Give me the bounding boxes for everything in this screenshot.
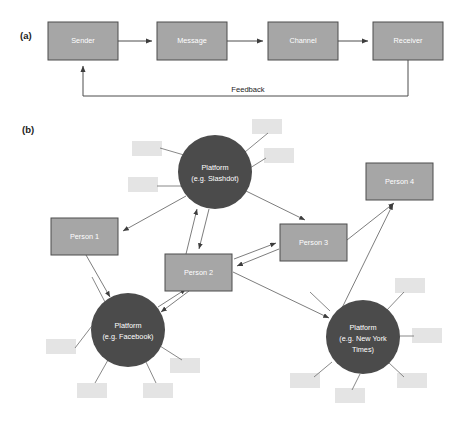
- faded-node: [395, 278, 425, 293]
- faded-node: [143, 383, 173, 398]
- node-platform-nytimes-line2: (e.g. New York: [339, 334, 387, 343]
- node-platform-slashdot[interactable]: Platform (e.g. Slashdot): [178, 135, 252, 209]
- panel-b-label: (b): [22, 124, 34, 135]
- node-platform-nytimes-line3: Times): [352, 345, 374, 354]
- faded-node: [264, 148, 294, 163]
- node-receiver[interactable]: Receiver: [373, 22, 443, 60]
- node-platform-slashdot-line2: (e.g. Slashdot): [191, 174, 238, 183]
- link-person2-to-facebook: [161, 291, 189, 312]
- node-person1[interactable]: Person 1: [51, 218, 118, 255]
- diagram-canvas: (a) Sender Message Channel R: [0, 0, 455, 426]
- node-platform-facebook-line2: (e.g. Facebook): [102, 332, 153, 341]
- node-channel[interactable]: Channel: [268, 22, 338, 60]
- link-person3-to-person4: [347, 203, 394, 240]
- node-platform-facebook[interactable]: Platform (e.g. Facebook): [91, 293, 165, 367]
- node-person4-label: Person 4: [385, 177, 414, 186]
- spoke: [146, 362, 156, 383]
- node-person2[interactable]: Person 2: [165, 254, 232, 291]
- feedback-label: Feedback: [231, 85, 265, 94]
- faded-node: [128, 177, 158, 192]
- node-person3[interactable]: Person 3: [280, 224, 347, 261]
- node-person4[interactable]: Person 4: [366, 163, 433, 200]
- node-message[interactable]: Message: [157, 22, 227, 60]
- faded-node: [77, 383, 107, 398]
- node-sender-label: Sender: [71, 36, 95, 45]
- faded-node: [412, 328, 442, 343]
- link-slashdot-to-person3: [246, 191, 305, 220]
- faded-node: [46, 339, 76, 354]
- link-person1-to-facebook: [86, 255, 110, 297]
- node-person2-label: Person 2: [184, 268, 213, 277]
- node-message-label: Message: [177, 36, 207, 45]
- node-platform-facebook-line1: Platform: [114, 321, 141, 330]
- node-sender[interactable]: Sender: [48, 22, 118, 60]
- link-person2-to-slashdot: [186, 209, 197, 254]
- spoke: [388, 362, 404, 377]
- node-receiver-label: Receiver: [394, 36, 423, 45]
- node-platform-facebook-shape[interactable]: [91, 293, 165, 367]
- panel-a: (a) Sender Message Channel R: [20, 22, 443, 96]
- link-slashdot-to-person2: [199, 209, 209, 249]
- link-nytimes-to-person4: [341, 204, 393, 310]
- faded-node: [335, 388, 365, 403]
- node-platform-slashdot-line1: Platform: [201, 163, 228, 172]
- spoke: [95, 360, 108, 383]
- link-person2-to-person3: [234, 243, 276, 259]
- spoke: [314, 362, 332, 377]
- faded-node: [252, 119, 282, 134]
- panel-b: (b): [22, 119, 442, 403]
- link-slashdot-to-person1: [123, 196, 186, 231]
- spoke: [160, 148, 184, 155]
- node-platform-slashdot-shape[interactable]: [178, 135, 252, 209]
- spoke: [250, 158, 266, 168]
- spoke: [310, 292, 330, 311]
- link-person2-to-nytimes: [233, 272, 329, 318]
- spoke: [352, 374, 360, 390]
- figure-communication-models: (a) Sender Message Channel R: [0, 0, 455, 426]
- spoke: [386, 292, 404, 311]
- node-platform-nytimes-line1: Platform: [349, 323, 376, 332]
- panel-a-label: (a): [20, 30, 32, 41]
- node-channel-label: Channel: [289, 36, 317, 45]
- faded-node: [170, 358, 200, 373]
- link-person3-to-person2: [237, 249, 279, 266]
- node-person3-label: Person 3: [299, 238, 328, 247]
- spoke: [160, 346, 182, 360]
- spoke: [92, 277, 105, 302]
- node-platform-nytimes[interactable]: Platform (e.g. New York Times): [326, 300, 400, 374]
- node-person1-label: Person 1: [70, 232, 99, 241]
- faded-node: [132, 141, 162, 156]
